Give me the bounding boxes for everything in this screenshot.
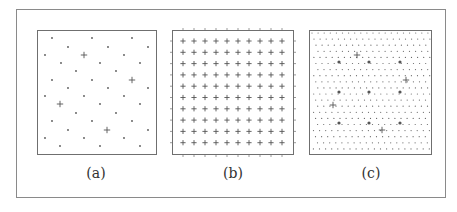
small-lattice-dot <box>374 130 375 131</box>
small-lattice-dot <box>364 118 365 119</box>
grid-plus-mark <box>224 38 229 43</box>
small-lattice-dot <box>334 63 335 64</box>
small-lattice-dot <box>390 87 391 88</box>
grid-plus-mark <box>235 50 240 55</box>
small-lattice-dot <box>370 45 371 46</box>
small-lattice-dot <box>364 63 365 64</box>
small-lattice-dot <box>423 130 424 131</box>
small-lattice-dot <box>425 63 426 64</box>
large-lattice-dot <box>367 60 370 63</box>
small-lattice-dot <box>330 32 331 33</box>
small-lattice-dot <box>368 112 369 113</box>
small-lattice-dot <box>350 93 351 94</box>
plus-mark <box>403 77 409 83</box>
grid-plus-mark <box>279 140 284 145</box>
small-lattice-dot <box>346 118 347 119</box>
small-lattice-dot <box>425 118 426 119</box>
small-lattice-dot <box>379 32 380 33</box>
grid-plus-mark <box>257 95 262 100</box>
small-lattice-dot <box>350 75 351 76</box>
small-lattice-dot <box>384 69 385 70</box>
small-lattice-dot <box>356 39 357 40</box>
panel-a-caption: (a) <box>86 165 105 181</box>
small-lattice-dot <box>323 69 324 70</box>
small-lattice-dot <box>352 63 353 64</box>
small-lattice-dot <box>328 63 329 64</box>
small-lattice-dot <box>407 118 408 119</box>
small-lattice-dot <box>421 142 422 143</box>
grid-plus-mark <box>246 72 251 77</box>
small-lattice-dot <box>315 118 316 119</box>
grid-plus-mark <box>191 72 196 77</box>
small-lattice-dot <box>346 100 347 101</box>
grid-plus-mark <box>180 106 185 111</box>
grid-plus-mark <box>268 140 273 145</box>
small-lattice-dot <box>313 93 314 94</box>
small-lattice-dot <box>409 87 410 88</box>
small-lattice-dot <box>427 32 428 33</box>
small-lattice-dot <box>380 75 381 76</box>
small-lattice-dot <box>399 57 400 58</box>
small-lattice-dot <box>415 69 416 70</box>
small-lattice-dot <box>342 106 343 107</box>
panel-b-square-grid <box>170 28 296 157</box>
small-lattice-dot <box>421 106 422 107</box>
small-lattice-dot <box>328 45 329 46</box>
grid-plus-mark <box>180 38 185 43</box>
small-lattice-dot <box>336 32 337 33</box>
small-lattice-dot <box>413 63 414 64</box>
grid-plus-mark <box>213 140 218 145</box>
lattice-dot <box>60 62 62 64</box>
small-lattice-dot <box>319 75 320 76</box>
grid-plus-mark <box>191 129 196 134</box>
small-lattice-dot <box>401 45 402 46</box>
small-lattice-dot <box>325 148 326 149</box>
grid-plus-mark <box>235 61 240 66</box>
small-lattice-dot <box>391 32 392 33</box>
small-lattice-dot <box>423 75 424 76</box>
lattice-dot <box>44 137 46 139</box>
small-lattice-dot <box>419 63 420 64</box>
small-lattice-dot <box>415 32 416 33</box>
lattice-dot <box>139 62 141 64</box>
panel-a-frame <box>38 31 157 155</box>
small-lattice-dot <box>348 124 349 125</box>
grid-plus-mark <box>257 140 262 145</box>
small-lattice-dot <box>429 39 430 40</box>
small-lattice-dot <box>332 39 333 40</box>
small-lattice-dot <box>372 51 373 52</box>
small-lattice-dot <box>409 106 410 107</box>
small-lattice-dot <box>417 57 418 58</box>
small-lattice-dot <box>366 106 367 107</box>
lattice-dot <box>75 112 77 114</box>
small-lattice-dot <box>360 69 361 70</box>
small-lattice-dot <box>344 112 345 113</box>
small-lattice-dot <box>427 106 428 107</box>
grid-plus-mark <box>180 129 185 134</box>
grid-plus-mark <box>257 84 262 89</box>
grid-plus-mark <box>213 118 218 123</box>
small-lattice-dot <box>393 57 394 58</box>
small-lattice-dot <box>403 32 404 33</box>
large-lattice-dot <box>398 90 401 93</box>
lattice-dot <box>123 137 125 139</box>
small-lattice-dot <box>386 112 387 113</box>
small-lattice-dot <box>374 57 375 58</box>
lattice-dot <box>91 120 93 122</box>
grid-plus-mark <box>268 38 273 43</box>
small-lattice-dot <box>382 63 383 64</box>
panel-c-dense-lattice <box>310 31 432 155</box>
small-lattice-dot <box>406 136 407 137</box>
small-lattice-dot <box>337 112 338 113</box>
small-lattice-dot <box>362 130 363 131</box>
grid-plus-mark <box>191 50 196 55</box>
small-lattice-dot <box>411 93 412 94</box>
plus-mark <box>81 52 87 58</box>
small-lattice-dot <box>388 136 389 137</box>
small-lattice-dot <box>387 57 388 58</box>
grid-plus-mark <box>224 129 229 134</box>
small-lattice-dot <box>344 57 345 58</box>
small-lattice-dot <box>372 69 373 70</box>
small-lattice-dot <box>352 45 353 46</box>
small-lattice-dot <box>415 142 416 143</box>
